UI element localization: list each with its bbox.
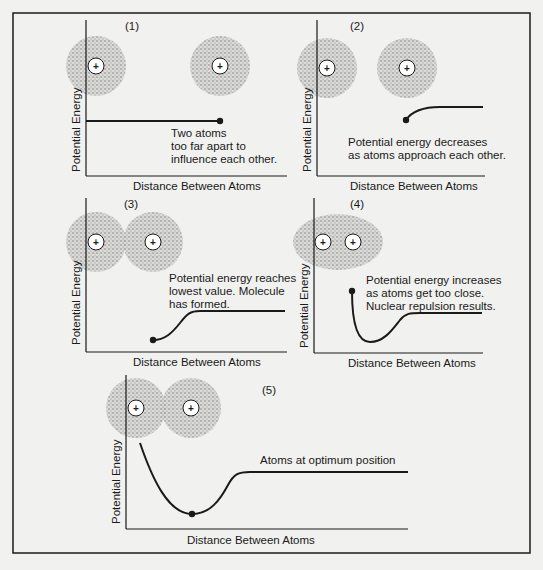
atom-right: +	[345, 234, 361, 250]
panel-number: (4)	[350, 198, 364, 210]
panel-5: (5) + + Potential Energy Distance Betwee…	[106, 375, 408, 546]
svg-text:+: +	[320, 237, 326, 248]
atom-right: +	[377, 38, 437, 98]
svg-text:+: +	[188, 403, 194, 414]
position-dot	[150, 337, 156, 343]
position-dot	[189, 511, 195, 517]
panel-4: (4) + + Potential Energy Distance Betwee…	[293, 198, 505, 369]
y-axis-label: Potential Energy	[301, 87, 313, 172]
caption: Potential energy increases as atoms get …	[366, 274, 505, 312]
atom-left: +	[315, 234, 331, 250]
atom-right: +	[161, 378, 221, 438]
caption: Two atoms too far apart to influence eac…	[171, 127, 277, 165]
svg-text:+: +	[150, 237, 156, 248]
panel-number: (5)	[262, 384, 276, 396]
svg-text:+: +	[217, 61, 223, 72]
x-axis-label: Distance Between Atoms	[133, 356, 261, 368]
caption: Potential energy reaches lowest value. M…	[169, 272, 299, 310]
position-dot	[217, 118, 223, 124]
x-axis-label: Distance Between Atoms	[348, 357, 476, 369]
panel-number: (2)	[350, 20, 364, 32]
caption: Atoms at optimum position	[260, 454, 396, 466]
atom-left: +	[106, 378, 166, 438]
x-axis-label: Distance Between Atoms	[350, 180, 478, 192]
panel-number: (1)	[125, 20, 139, 32]
position-dot	[403, 117, 409, 123]
caption: Potential energy decreases as atoms appr…	[348, 136, 506, 161]
svg-text:+: +	[93, 61, 99, 72]
x-axis-label: Distance Between Atoms	[187, 534, 315, 546]
y-axis-label: Potential Energy	[110, 439, 122, 524]
svg-text:+: +	[93, 237, 99, 248]
atom-right: +	[190, 36, 250, 96]
electron-cloud	[293, 214, 383, 270]
y-axis-label: Potential Energy	[298, 263, 310, 348]
y-axis-label: Potential Energy	[70, 87, 82, 172]
potential-energy-diagram: (1) + + Potential Energy Distance Betwee…	[0, 0, 543, 570]
atom-right: +	[123, 212, 183, 272]
panel-3: (3) + + Potential Energy Distance Betwee…	[66, 198, 299, 368]
panel-number: (3)	[124, 198, 138, 210]
svg-text:+: +	[350, 237, 356, 248]
atom-left: +	[66, 36, 126, 96]
panel-2: (2) + + Potential Energy Distance Betwee…	[297, 20, 506, 192]
svg-text:+: +	[133, 403, 139, 414]
y-axis-label: Potential Energy	[70, 260, 82, 345]
panel-1: (1) + + Potential Energy Distance Betwee…	[66, 20, 287, 192]
svg-text:+: +	[404, 63, 410, 74]
energy-curve	[153, 311, 285, 340]
position-dot	[349, 288, 355, 294]
merged-electron-cloud	[293, 214, 383, 270]
x-axis-label: Distance Between Atoms	[133, 180, 261, 192]
energy-curve	[406, 107, 483, 120]
svg-text:+: +	[324, 63, 330, 74]
